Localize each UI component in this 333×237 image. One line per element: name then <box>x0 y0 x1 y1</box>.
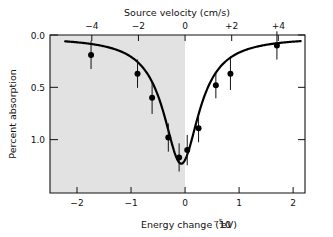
data-point <box>149 95 155 101</box>
mossbauer-absorption-chart: −4−20+2+4 −2−1012 0.00.51.0 Source veloc… <box>0 0 333 237</box>
top-tick-label: −4 <box>85 21 99 31</box>
left-tick-label: 0.0 <box>31 31 46 41</box>
data-point <box>184 147 190 153</box>
top-tick-label: +4 <box>272 21 286 31</box>
left-tick-label: 0.5 <box>31 83 45 93</box>
top-tick-label: 0 <box>182 21 188 31</box>
right-axis-ticks <box>298 35 305 140</box>
data-point <box>176 154 182 160</box>
bottom-tick-label: 1 <box>236 198 242 208</box>
data-point <box>165 135 171 141</box>
chart-svg: −4−20+2+4 −2−1012 0.00.51.0 Source veloc… <box>0 0 333 237</box>
top-tick-label: +2 <box>225 21 238 31</box>
top-tick-label: −2 <box>132 21 145 31</box>
left-axis-title: Percent absorption <box>7 69 18 159</box>
bottom-tick-label: 0 <box>182 198 188 208</box>
bottom-tick-label: −1 <box>124 198 137 208</box>
data-point <box>213 82 219 88</box>
data-point <box>88 52 94 58</box>
data-point <box>274 42 280 48</box>
bottom-tick-label: −2 <box>70 198 83 208</box>
left-axis-tick-labels: 0.00.51.0 <box>31 31 46 146</box>
left-tick-label: 1.0 <box>31 135 46 145</box>
data-point <box>227 71 233 77</box>
data-point <box>135 71 141 77</box>
data-point <box>196 125 202 131</box>
bottom-axis-title-tail: eV) <box>221 219 237 230</box>
top-axis-tick-labels: −4−20+2+4 <box>85 21 285 31</box>
bottom-axis-tick-labels: −2−1012 <box>70 198 296 208</box>
bottom-tick-label: 2 <box>290 198 296 208</box>
top-axis-title: Source velocity (cm/s) <box>124 7 230 18</box>
